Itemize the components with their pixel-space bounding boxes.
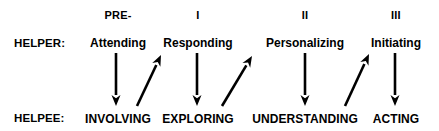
involving-to-responding (137, 55, 161, 106)
arrow-layer (0, 0, 439, 131)
personalizing-to-understanding (301, 53, 310, 106)
attending-to-involving (112, 53, 121, 106)
understanding-to-initiating (345, 54, 369, 106)
helping-process-diagram: PRE- I II III HELPER: HELPEE: Attending … (0, 0, 439, 131)
responding-to-exploring (193, 53, 202, 106)
exploring-to-personalizing (222, 56, 252, 106)
initiating-to-acting (391, 53, 400, 106)
